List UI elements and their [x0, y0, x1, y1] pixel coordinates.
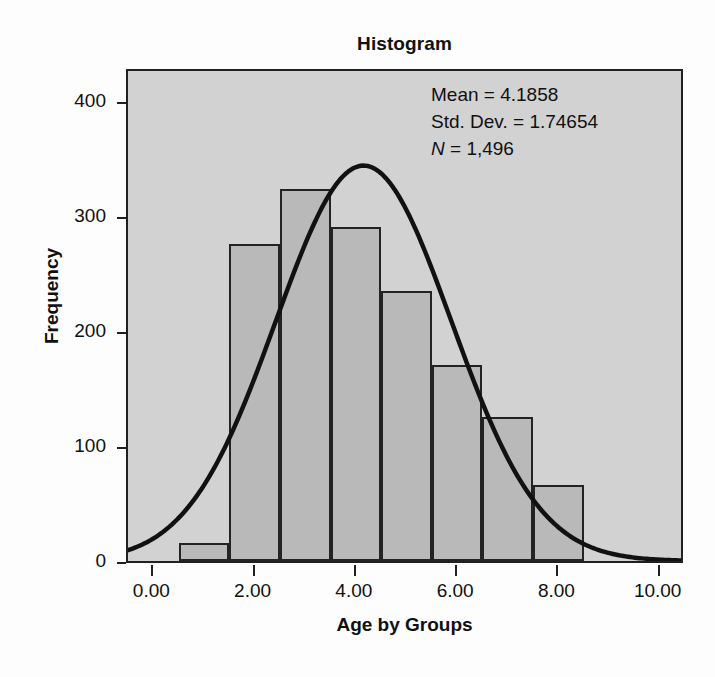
y-axis-title: Frequency [41, 206, 63, 386]
y-tick-label: 200 [36, 320, 106, 342]
y-tick-label: 400 [36, 90, 106, 112]
histogram-bar [179, 543, 230, 561]
y-tick-mark [117, 562, 126, 564]
statistics-annotation: Mean = 4.1858 Std. Dev. = 1.74654 N = 1,… [431, 81, 598, 162]
x-axis-title: Age by Groups [126, 614, 683, 636]
y-tick-mark [117, 217, 126, 219]
y-tick-mark [117, 332, 126, 334]
stat-mean: Mean = 4.1858 [431, 81, 598, 108]
stat-std-dev: Std. Dev. = 1.74654 [431, 108, 598, 135]
stat-n-symbol: N [431, 138, 445, 159]
y-tick-label: 300 [36, 205, 106, 227]
histogram-figure: Histogram Frequency 0100200300400 Mean =… [0, 0, 715, 677]
histogram-bar [331, 227, 382, 561]
histogram-bar [482, 417, 533, 561]
x-tick-label: 0.00 [96, 580, 206, 602]
y-tick-mark [117, 447, 126, 449]
x-tick-mark [151, 565, 153, 576]
plot-area: Mean = 4.1858 Std. Dev. = 1.74654 N = 1,… [126, 69, 683, 563]
x-tick-mark [658, 565, 660, 576]
histogram-bar [432, 365, 483, 561]
x-tick-mark [455, 565, 457, 576]
histogram-bar [229, 244, 280, 561]
x-tick-label: 2.00 [198, 580, 308, 602]
x-tick-label: 4.00 [299, 580, 409, 602]
x-tick-label: 10.00 [603, 580, 713, 602]
stat-n: N = 1,496 [431, 135, 598, 162]
histogram-bar [280, 189, 331, 561]
x-tick-mark [556, 565, 558, 576]
stat-n-value: = 1,496 [445, 138, 514, 159]
x-tick-label: 6.00 [400, 580, 510, 602]
x-tick-mark [253, 565, 255, 576]
x-tick-mark [354, 565, 356, 576]
histogram-bar [533, 485, 584, 561]
y-tick-mark [117, 102, 126, 104]
page-title: Histogram [126, 33, 683, 55]
y-tick-label: 100 [36, 435, 106, 457]
x-tick-label: 8.00 [501, 580, 611, 602]
histogram-bar [381, 291, 432, 561]
y-tick-label: 0 [36, 550, 106, 572]
